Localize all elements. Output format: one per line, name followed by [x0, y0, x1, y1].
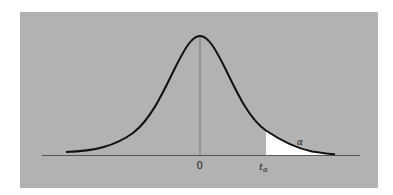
distribution-chart: 0 tα α — [0, 0, 393, 195]
density-curve — [66, 36, 335, 154]
t-alpha-tick-label: tα — [259, 161, 268, 174]
alpha-label: α — [297, 137, 303, 147]
zero-tick-label: 0 — [197, 160, 203, 171]
